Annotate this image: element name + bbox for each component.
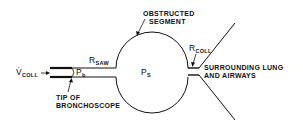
r-saw-sub: SAW bbox=[95, 60, 108, 66]
bronchoscope-tip bbox=[73, 69, 74, 77]
segment-wall-bottom bbox=[116, 77, 188, 113]
surrounding-label-line1: SURROUNDING LUNG bbox=[204, 64, 283, 72]
r-coll-label: RCOLL bbox=[189, 44, 212, 55]
v-coll-sub: COLL bbox=[22, 72, 38, 78]
v-coll-label: V̇COLL bbox=[16, 68, 38, 79]
p-b-sub: b bbox=[82, 72, 86, 78]
obstructed-label-line1: OBSTRUCTED bbox=[143, 10, 195, 18]
r-coll-sub: COLL bbox=[195, 48, 211, 54]
surrounding-label-line2: AND AIRWAYS bbox=[204, 72, 283, 80]
r-saw-label: RSAW bbox=[89, 56, 109, 67]
obstructed-segment-label: OBSTRUCTED SEGMENT bbox=[143, 10, 195, 26]
p-s-sub: S bbox=[147, 72, 151, 78]
tip-label-line1: TIP OF bbox=[56, 94, 120, 102]
p-s-label: PS bbox=[141, 68, 151, 79]
tip-label-line2: BRONCHOSCOPE bbox=[56, 102, 120, 110]
tip-of-bronchoscope-label: TIP OF BRONCHOSCOPE bbox=[56, 94, 120, 110]
obstructed-label-line2: SEGMENT bbox=[143, 18, 195, 26]
r-coll-arrow bbox=[191, 54, 196, 67]
tip-arrow bbox=[68, 78, 73, 92]
p-b-label: Pb bbox=[76, 68, 86, 79]
v-coll-arrow bbox=[41, 71, 50, 75]
lung-line-bottom bbox=[199, 75, 235, 120]
surrounding-lung-label: SURROUNDING LUNG AND AIRWAYS bbox=[204, 64, 283, 80]
segment-wall-top bbox=[116, 32, 188, 68]
